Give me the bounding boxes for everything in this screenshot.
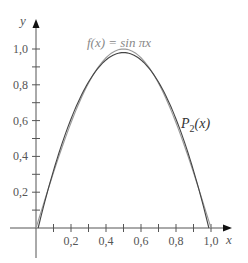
x-tick-label: 0,8: [169, 234, 184, 248]
annot-f-prefix: f(x) = sin: [87, 35, 139, 50]
y-axis-label: y: [18, 13, 26, 28]
series-group: [36, 49, 211, 228]
chart: x y 0,20,40,60,81,0 0,20,40,60,81,0 f(x)…: [0, 0, 248, 263]
p2-curve-annotation: P2(x): [180, 116, 210, 134]
x-tick-label: 0,6: [134, 234, 149, 248]
x-axis-arrow-icon: [223, 225, 232, 232]
p2-curve: [38, 53, 209, 228]
annot-p-main: P: [180, 116, 190, 131]
x-tick-label: 1,0: [204, 234, 219, 248]
y-tick-label: 0,4: [13, 149, 28, 163]
x-tick-label: 0,4: [99, 234, 114, 248]
annot-p-suffix: (x): [195, 116, 211, 132]
y-tick-label: 0,2: [13, 185, 28, 199]
sin-curve-annotation: f(x) = sin πx: [87, 35, 151, 50]
sin-curve: [36, 49, 211, 228]
y-tick-label: 0,6: [13, 114, 28, 128]
x-axis-label: x: [225, 232, 232, 247]
y-tick-label: 1,0: [13, 42, 28, 56]
y-axis-arrow-icon: [33, 19, 40, 28]
annotations: f(x) = sin πx P2(x): [87, 35, 210, 134]
annot-f-suffix: x: [144, 35, 151, 50]
x-tick-label: 0,2: [64, 234, 79, 248]
y-tick-label: 0,8: [13, 78, 28, 92]
